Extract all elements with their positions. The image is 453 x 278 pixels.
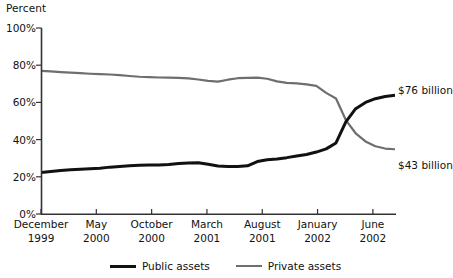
x-axis-tick-labels: December1999May2000October2000March2001A… (0, 218, 451, 252)
x-axis-tick-label: January2002 (298, 218, 338, 245)
x-axis-tick-label: May2000 (83, 218, 110, 245)
line-public-assets (41, 95, 395, 172)
legend-swatch-public-assets (110, 265, 136, 268)
x-tick-month: October (131, 218, 173, 232)
legend-swatch-private-assets (236, 265, 262, 267)
x-tick-year: 2000 (131, 232, 173, 246)
line-private-assets (41, 71, 395, 149)
legend-label-private-assets: Private assets (268, 260, 341, 272)
x-tick-month: December (14, 218, 68, 232)
x-tick-year: 2001 (244, 232, 281, 246)
x-tick-year: 2002 (298, 232, 338, 246)
legend-item-public-assets: Public assets (110, 260, 210, 272)
x-tick-year: 2002 (360, 232, 387, 246)
x-axis-tick-label: October2000 (131, 218, 173, 245)
x-tick-year: 2001 (191, 232, 223, 246)
x-tick-month: May (83, 218, 110, 232)
plot-area (41, 28, 395, 214)
x-tick-month: June (360, 218, 387, 232)
x-tick-month: January (298, 218, 338, 232)
x-axis-tick-label: August2001 (244, 218, 281, 245)
x-axis-tick-label: March2001 (191, 218, 223, 245)
annotation-private-assets-value: $43 billion (398, 159, 453, 171)
chart-legend: Public assets Private assets (0, 256, 451, 276)
y-axis-tick-label: 60% (13, 96, 36, 108)
y-axis-tick-label: 100% (6, 22, 36, 34)
x-tick-year: 2000 (83, 232, 110, 246)
y-axis-tick-label: 80% (13, 59, 36, 71)
x-axis-tick-label: June2002 (360, 218, 387, 245)
annotation-public-assets-value: $76 billion (398, 84, 453, 96)
x-tick-year: 1999 (14, 232, 68, 246)
legend-item-private-assets: Private assets (236, 260, 341, 272)
y-axis-tick-label: 40% (13, 134, 36, 146)
y-axis-tick-label: 20% (13, 171, 36, 183)
x-tick-month: August (244, 218, 281, 232)
x-axis-tick-label: December1999 (14, 218, 68, 245)
x-tick-month: March (191, 218, 223, 232)
legend-label-public-assets: Public assets (142, 260, 210, 272)
